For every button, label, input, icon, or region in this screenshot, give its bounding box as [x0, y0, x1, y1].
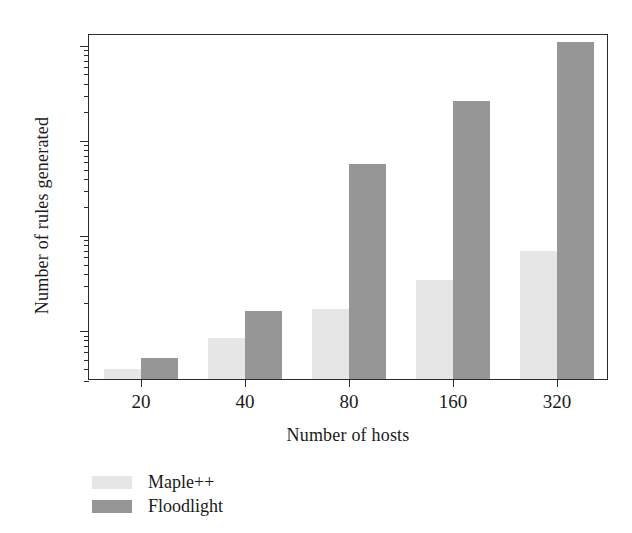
- y-axis-tick-major: [80, 46, 89, 47]
- legend-swatch-floodlight: [92, 500, 132, 513]
- legend-swatch-maple: [92, 476, 132, 489]
- x-axis-title: Number of hosts: [88, 425, 608, 446]
- x-axis-tick-label: 20: [101, 391, 181, 413]
- bar-maple-80: [312, 309, 349, 379]
- y-axis-tick-major: [80, 236, 89, 237]
- bar-maple-20: [104, 369, 141, 379]
- bar-series-container: [89, 35, 607, 379]
- chart-legend: Maple++ Floodlight: [92, 470, 352, 518]
- x-axis-tick: [557, 379, 558, 387]
- bar-chart-figure: Number of rules generated 102103104105 2…: [0, 0, 632, 533]
- x-axis-tick-label: 160: [413, 391, 493, 413]
- x-axis-tick: [141, 379, 142, 387]
- x-axis-tick: [245, 379, 246, 387]
- bar-floodlight-160: [453, 101, 490, 379]
- x-axis-tick-label: 320: [517, 391, 597, 413]
- y-axis-tick-minor: [84, 381, 89, 382]
- x-axis-tick: [453, 379, 454, 387]
- plot-area: 102103104105 204080160320: [88, 34, 608, 380]
- bar-floodlight-20: [141, 358, 178, 379]
- x-axis-tick: [349, 379, 350, 387]
- legend-label-floodlight: Floodlight: [148, 496, 223, 517]
- y-axis-title: Number of rules generated: [32, 86, 53, 346]
- bar-maple-160: [416, 280, 453, 379]
- legend-label-maple: Maple++: [148, 472, 214, 493]
- x-axis-tick-label: 80: [309, 391, 389, 413]
- bar-floodlight-80: [349, 164, 386, 379]
- legend-item-maple: Maple++: [92, 470, 352, 494]
- bar-floodlight-40: [245, 311, 282, 379]
- y-axis-tick-major: [80, 141, 89, 142]
- bar-maple-320: [520, 251, 557, 379]
- y-axis-tick-major: [80, 331, 89, 332]
- x-axis-tick-label: 40: [205, 391, 285, 413]
- legend-item-floodlight: Floodlight: [92, 494, 352, 518]
- bar-maple-40: [208, 338, 245, 379]
- bar-floodlight-320: [557, 42, 594, 379]
